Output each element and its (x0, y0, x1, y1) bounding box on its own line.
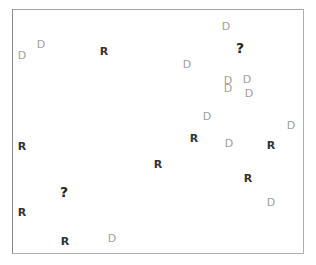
label-r: R (18, 207, 26, 218)
label-d: D (287, 120, 295, 131)
label-d: D (108, 233, 116, 244)
label-d: D (267, 197, 275, 208)
label-r: R (190, 133, 198, 144)
label-d: D (224, 83, 232, 94)
label-d: D (222, 21, 230, 32)
label-r: R (18, 141, 26, 152)
label-d: D (183, 59, 191, 70)
label-d: D (245, 88, 253, 99)
label-d: D (203, 111, 211, 122)
label-r: R (267, 140, 275, 151)
label-d: D (18, 50, 26, 61)
label-r: R (244, 173, 252, 184)
label-d: D (243, 74, 251, 85)
label-r: R (154, 159, 162, 170)
label-r: R (61, 236, 69, 247)
label-d: D (37, 39, 45, 50)
label-unknown: ? (236, 41, 244, 55)
diagram-frame (12, 9, 304, 254)
label-unknown: ? (60, 185, 68, 199)
label-r: R (100, 46, 108, 57)
label-d: D (225, 138, 233, 149)
